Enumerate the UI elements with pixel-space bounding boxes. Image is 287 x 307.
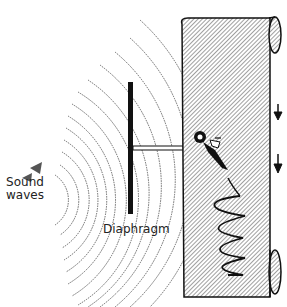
diagram-illustration [0,0,287,307]
phonautograph-diagram: Sound waves Diaphragm [0,0,287,307]
diaphragm [128,82,133,214]
sound-waves-label: Sound waves [2,176,48,202]
sound-label-line2: waves [2,189,48,202]
diaphragm-label: Diaphragm [103,223,170,236]
motion-arrows [274,104,282,173]
